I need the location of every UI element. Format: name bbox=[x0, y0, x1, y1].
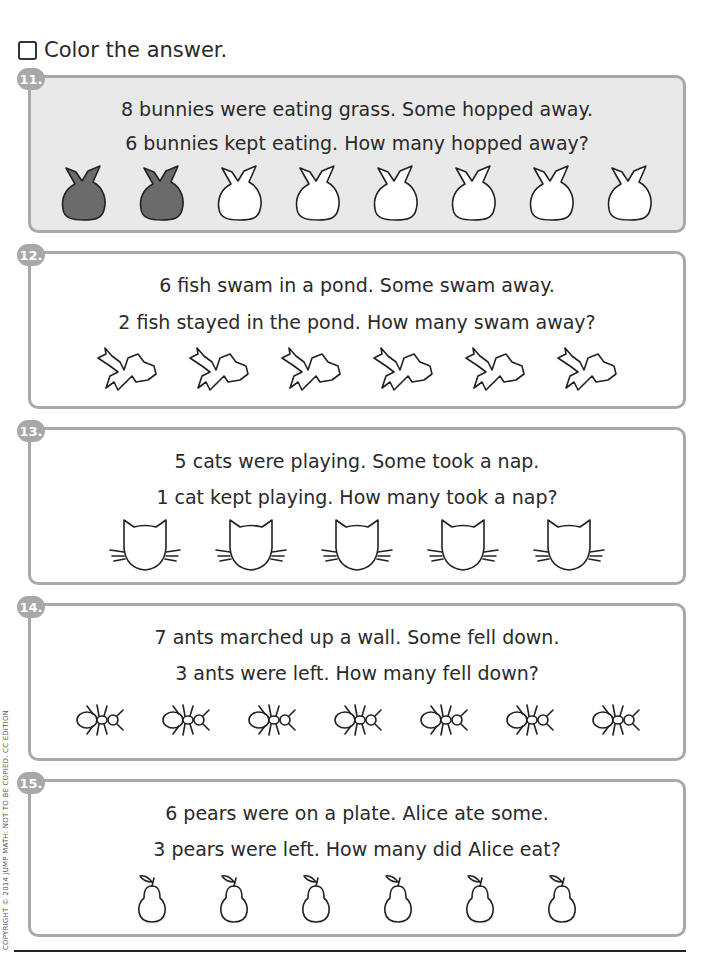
problem-number-badge: 14. bbox=[17, 596, 45, 618]
picture-row bbox=[31, 516, 683, 576]
ant-icon[interactable] bbox=[159, 702, 211, 742]
problem-line-1: 5 cats were playing. Some took a nap. bbox=[31, 450, 683, 472]
problem-line-2: 6 bunnies kept eating. How many hopped a… bbox=[31, 132, 683, 154]
cat-icon[interactable] bbox=[320, 516, 394, 576]
cat-icon[interactable] bbox=[214, 516, 288, 576]
problem-line-2: 1 cat kept playing. How many took a nap? bbox=[31, 486, 683, 508]
bunny-icon[interactable] bbox=[136, 162, 188, 228]
pear-icon[interactable] bbox=[296, 870, 336, 930]
problem-number-badge: 15. bbox=[17, 772, 45, 794]
pear-icon[interactable] bbox=[460, 870, 500, 930]
problem-line-1: 6 pears were on a plate. Alice ate some. bbox=[31, 802, 683, 824]
picture-row bbox=[31, 870, 683, 930]
problem-number-badge: 13. bbox=[17, 420, 45, 442]
copyright-notice: COPYRIGHT © 2014 JUMP MATH: NOT TO BE CO… bbox=[2, 710, 10, 950]
problem-15: 15. 6 pears were on a plate. Alice ate s… bbox=[28, 779, 686, 937]
pear-icon[interactable] bbox=[214, 870, 254, 930]
problem-line-2: 2 fish stayed in the pond. How many swam… bbox=[31, 311, 683, 333]
bunny-icon[interactable] bbox=[370, 162, 422, 228]
fish-icon[interactable] bbox=[184, 344, 254, 398]
ant-icon[interactable] bbox=[503, 702, 555, 742]
picture-row bbox=[31, 344, 683, 398]
instruction-text: Color the answer. bbox=[44, 38, 227, 62]
pear-icon[interactable] bbox=[132, 870, 172, 930]
bunny-icon[interactable] bbox=[58, 162, 110, 228]
picture-row bbox=[31, 702, 683, 742]
fish-icon[interactable] bbox=[92, 344, 162, 398]
bunny-icon[interactable] bbox=[526, 162, 578, 228]
fish-icon[interactable] bbox=[276, 344, 346, 398]
problem-line-2: 3 ants were left. How many fell down? bbox=[31, 662, 683, 684]
problem-line-1: 7 ants marched up a wall. Some fell down… bbox=[31, 626, 683, 648]
problem-number-badge: 11. bbox=[17, 68, 45, 90]
bunny-icon[interactable] bbox=[292, 162, 344, 228]
ant-icon[interactable] bbox=[589, 702, 641, 742]
problem-13: 13. 5 cats were playing. Some took a nap… bbox=[28, 427, 686, 585]
ant-icon[interactable] bbox=[417, 702, 469, 742]
empty-checkbox-icon[interactable] bbox=[18, 41, 37, 60]
bottom-rule bbox=[14, 950, 686, 952]
bunny-icon[interactable] bbox=[604, 162, 656, 228]
pear-icon[interactable] bbox=[378, 870, 418, 930]
fish-icon[interactable] bbox=[368, 344, 438, 398]
problem-line-1: 6 fish swam in a pond. Some swam away. bbox=[31, 274, 683, 296]
problem-line-1: 8 bunnies were eating grass. Some hopped… bbox=[31, 98, 683, 120]
picture-row bbox=[31, 162, 683, 228]
problem-number-badge: 12. bbox=[17, 244, 45, 266]
problem-line-2: 3 pears were left. How many did Alice ea… bbox=[31, 838, 683, 860]
bunny-icon[interactable] bbox=[448, 162, 500, 228]
fish-icon[interactable] bbox=[552, 344, 622, 398]
bunny-icon[interactable] bbox=[214, 162, 266, 228]
ant-icon[interactable] bbox=[245, 702, 297, 742]
problem-11: 11. 8 bunnies were eating grass. Some ho… bbox=[28, 75, 686, 233]
ant-icon[interactable] bbox=[331, 702, 383, 742]
cat-icon[interactable] bbox=[108, 516, 182, 576]
cat-icon[interactable] bbox=[426, 516, 500, 576]
instruction: Color the answer. bbox=[18, 38, 227, 62]
problem-12: 12. 6 fish swam in a pond. Some swam awa… bbox=[28, 251, 686, 409]
problem-14: 14. 7 ants marched up a wall. Some fell … bbox=[28, 603, 686, 761]
fish-icon[interactable] bbox=[460, 344, 530, 398]
pear-icon[interactable] bbox=[542, 870, 582, 930]
cat-icon[interactable] bbox=[532, 516, 606, 576]
ant-icon[interactable] bbox=[73, 702, 125, 742]
